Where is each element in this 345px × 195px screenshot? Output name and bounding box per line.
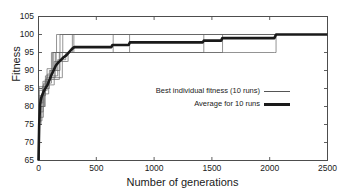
legend-label-average: Average for 10 runs (194, 99, 260, 108)
series-line-best-individual (39, 35, 328, 161)
series-line-average (39, 35, 328, 161)
series-line-best-individual (39, 35, 328, 161)
legend-swatch-thick-line (264, 103, 290, 106)
chart-figure: Fitness Number of generations 6570758085… (0, 0, 345, 195)
series-line-best-individual (39, 35, 328, 161)
series-line-best-individual (39, 35, 328, 161)
series-line-best-individual (39, 35, 328, 161)
legend-swatch-thin-line (264, 91, 290, 92)
legend-entry-best-individual: Best individual fitness (10 runs) (130, 86, 290, 95)
series-line-best-individual (39, 35, 328, 161)
legend-entry-average: Average for 10 runs (130, 99, 290, 108)
plot-area (0, 0, 345, 195)
series-line-best-individual (39, 35, 328, 161)
series-line-best-individual (39, 35, 328, 161)
series-line-best-individual (39, 35, 328, 161)
series-line-best-individual (39, 35, 328, 161)
legend-label-best-individual: Best individual fitness (10 runs) (156, 86, 260, 95)
